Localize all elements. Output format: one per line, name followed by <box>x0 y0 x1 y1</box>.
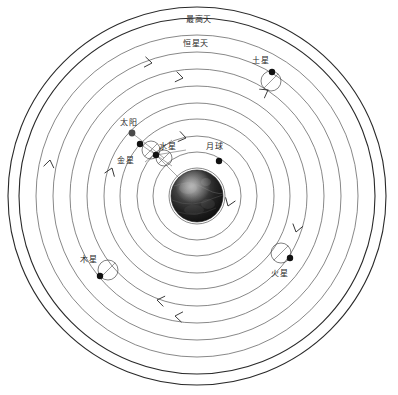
arrow-inner-top <box>178 132 187 143</box>
label-saturn: 土星 <box>252 57 269 65</box>
label-mars: 火星 <box>271 270 288 278</box>
label-jupiter: 木星 <box>80 256 97 264</box>
label-moon: 月球 <box>206 143 223 151</box>
body-marker-moon <box>216 158 222 164</box>
body-marker-mars <box>287 255 293 261</box>
label-sun: 太阳 <box>120 119 137 127</box>
earth-globe <box>171 170 230 222</box>
label-fixed-stars-sphere: 恒星天 <box>183 40 209 48</box>
body-marker-mercury <box>153 152 159 158</box>
epicycle-radius-saturn <box>264 74 278 88</box>
arrow-saturn-epi <box>259 86 270 98</box>
cosmology-diagram-canvas: 最高天 恒星天 土星 木星 火星 太阳 金星 水星 月球 <box>0 0 398 395</box>
body-marker-venus <box>137 141 143 147</box>
arrow-left-upper <box>44 159 55 168</box>
arrow-top <box>144 57 152 68</box>
label-venus: 金星 <box>117 157 134 165</box>
body-marker-sun <box>129 130 136 137</box>
diagram-vector-layer <box>0 0 398 395</box>
label-outermost-sphere: 最高天 <box>186 16 212 24</box>
body-marker-jupiter <box>97 273 103 279</box>
arrow-upper-mid <box>175 72 184 83</box>
body-marker-saturn <box>269 69 275 75</box>
epicycle-radius-mars <box>274 246 288 260</box>
label-mercury: 水星 <box>159 143 176 151</box>
arrow-bottom-mid <box>174 311 182 322</box>
